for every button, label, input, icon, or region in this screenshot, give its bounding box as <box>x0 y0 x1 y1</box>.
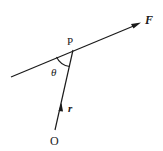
force-label: F <box>144 13 153 27</box>
position-vector-label: r <box>68 102 73 114</box>
diagram-canvas: F P θ r O <box>0 0 163 151</box>
point-p-label: P <box>67 35 73 47</box>
position-vector-line <box>55 50 73 130</box>
force-line-of-action <box>11 25 136 77</box>
angle-arc <box>57 57 70 67</box>
force-arrowhead-icon <box>131 23 141 29</box>
origin-label: O <box>50 134 59 148</box>
angle-theta-label: θ <box>51 66 57 78</box>
